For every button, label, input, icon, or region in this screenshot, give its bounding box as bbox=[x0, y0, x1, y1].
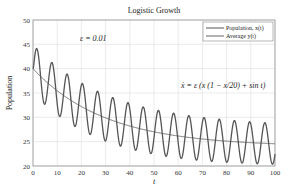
y-tick-label: 40 bbox=[23, 65, 31, 73]
y-axis-label: Population bbox=[5, 76, 14, 111]
x-tick-label: 80 bbox=[223, 169, 231, 177]
y-tick-label: 50 bbox=[23, 17, 31, 25]
x-axis-label: t bbox=[153, 177, 156, 186]
legend-label-average: Average y(t) bbox=[226, 33, 256, 40]
x-tick-label: 90 bbox=[247, 169, 255, 177]
x-tick-label: 100 bbox=[270, 169, 281, 177]
y-tick-label: 30 bbox=[23, 114, 31, 122]
x-tick-label: 0 bbox=[31, 169, 35, 177]
y-tick-label: 45 bbox=[23, 41, 31, 49]
equation-annotation: ẋ = ε (x (1 − x/20) + sin t) bbox=[180, 81, 266, 90]
x-tick-label: 10 bbox=[54, 169, 62, 177]
x-tick-label: 60 bbox=[175, 169, 183, 177]
y-tick-label: 20 bbox=[23, 163, 31, 171]
x-tick-label: 20 bbox=[78, 169, 86, 177]
x-tick-label: 70 bbox=[199, 169, 207, 177]
epsilon-annotation: ε = 0.01 bbox=[80, 34, 107, 43]
logistic-growth-chart: Logistic Growth 20253035404550 010203040… bbox=[0, 0, 294, 191]
y-axis-ticks: 20253035404550 bbox=[23, 17, 31, 171]
y-tick-label: 25 bbox=[23, 138, 31, 146]
x-tick-label: 40 bbox=[126, 169, 134, 177]
chart-title: Logistic Growth bbox=[128, 6, 181, 15]
legend-label-population: Population, x(t) bbox=[226, 25, 264, 32]
y-tick-label: 35 bbox=[23, 90, 31, 98]
x-axis-ticks: 0102030405060708090100 bbox=[31, 169, 281, 177]
x-tick-label: 50 bbox=[151, 169, 159, 177]
x-tick-label: 30 bbox=[102, 169, 110, 177]
legend: Population, x(t) Average y(t) bbox=[203, 22, 273, 41]
